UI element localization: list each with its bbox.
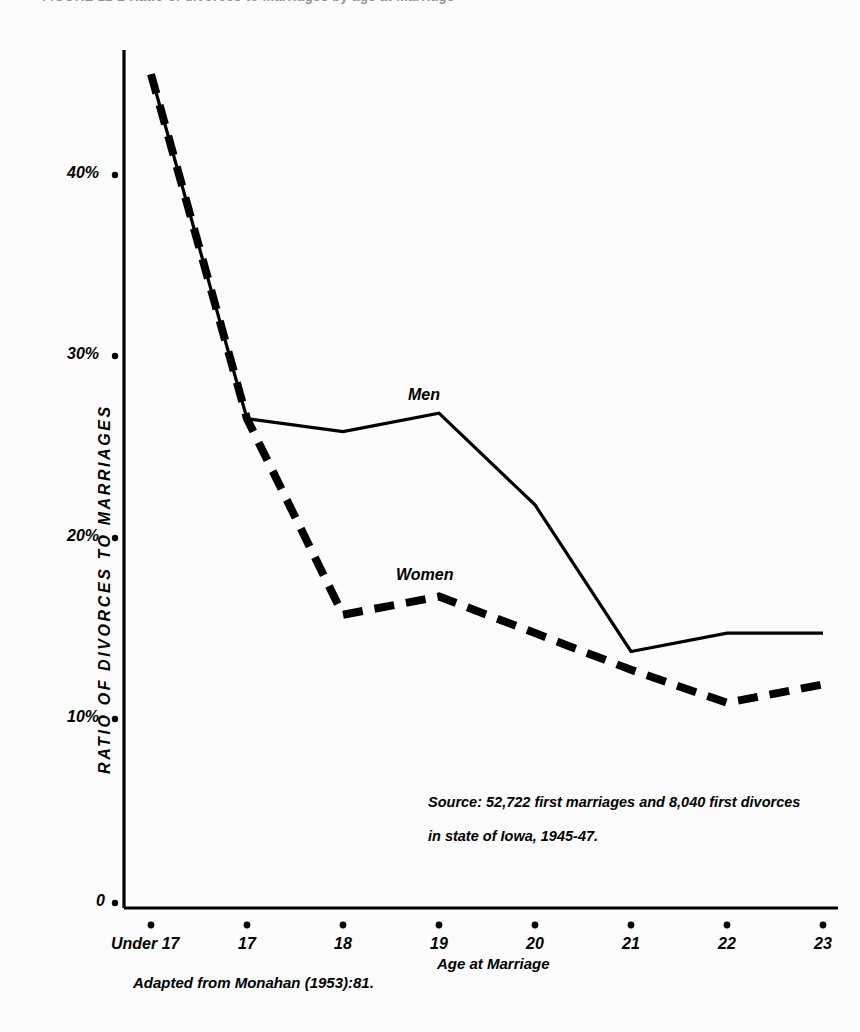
figure-container: FIGURE 12-2 Ratio of divorces to marriag… <box>0 0 860 1032</box>
source-note-line-2: in state of Iowa, 1945-47. <box>428 819 598 853</box>
y-tick-label-20: 20% <box>67 527 99 545</box>
y-tick-label-30: 30% <box>67 345 99 363</box>
x-tick-marks <box>148 922 827 929</box>
series-line-women <box>151 74 823 703</box>
x-tick-label-21: 21 <box>622 935 640 953</box>
y-tick-label-0: 0 <box>96 892 105 910</box>
figure-caption: Adapted from Monahan (1953):81. <box>133 974 374 991</box>
source-note-line-1: Source: 52,722 first marriages and 8,040… <box>428 785 800 819</box>
x-tick-label-19: 19 <box>430 935 448 953</box>
x-tick-label-20: 20 <box>526 935 544 953</box>
chart-canvas <box>0 0 860 1032</box>
x-tick-label-under-17: Under 17 <box>111 935 179 953</box>
x-tick-label-18: 18 <box>334 935 352 953</box>
y-tick-label-40: 40% <box>67 164 99 182</box>
x-tick-label-23: 23 <box>814 935 832 953</box>
x-tick-label-17: 17 <box>238 935 256 953</box>
x-axis-title: Age at Marriage <box>437 955 550 972</box>
y-tick-label-10: 10% <box>67 708 99 726</box>
series-line-men <box>151 74 823 651</box>
y-axis-title: RATIO OF DIVORCES TO MARRIAGES <box>96 444 114 774</box>
x-tick-label-22: 22 <box>718 935 736 953</box>
series-label-women: Women <box>396 566 453 584</box>
series-label-men: Men <box>408 386 440 404</box>
